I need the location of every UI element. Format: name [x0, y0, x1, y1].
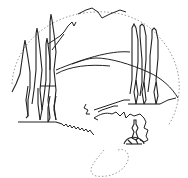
small-figure	[124, 120, 144, 144]
cypress-trees-right	[128, 24, 160, 104]
shrub-cluster	[84, 104, 148, 142]
cypress-trees-left	[12, 14, 62, 124]
line-art-illustration	[0, 0, 188, 178]
mountain-peak	[48, 8, 126, 50]
